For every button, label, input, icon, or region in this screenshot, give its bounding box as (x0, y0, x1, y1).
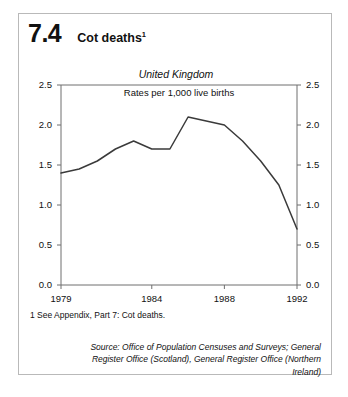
chart-axes (61, 85, 297, 285)
y-axis-label-right-2: 1.0 (306, 200, 330, 210)
x-axis-label-3: 1992 (277, 294, 317, 304)
line-chart (19, 14, 333, 376)
data-series-line-united-kingdom (61, 117, 297, 229)
figure-footnote: 1 See Appendix, Part 7: Cot deaths. (30, 310, 165, 320)
chart-units-annotation: Rates per 1,000 live births (61, 87, 297, 98)
chart-tick-marks (57, 85, 301, 289)
y-axis-label-left-3: 1.5 (28, 160, 52, 170)
figure-panel: 7.4 Cot deaths1 United Kingdom Rates per… (18, 13, 332, 375)
y-axis-label-left-2: 1.0 (28, 200, 52, 210)
y-axis-label-right-3: 1.5 (306, 160, 330, 170)
y-axis-label-left-0: 0.0 (28, 280, 52, 290)
y-axis-label-left-4: 2.0 (28, 120, 52, 130)
x-axis-label-2: 1988 (204, 294, 244, 304)
figure-source-note: Source: Office of Population Censuses an… (69, 341, 321, 378)
y-axis-label-right-1: 0.5 (306, 240, 330, 250)
chart-plot-area: Rates per 1,000 live births 0.00.00.50.5… (19, 14, 333, 376)
x-axis-label-0: 1979 (41, 294, 81, 304)
y-axis-label-right-5: 2.5 (306, 80, 330, 90)
y-axis-label-left-1: 0.5 (28, 240, 52, 250)
y-axis-label-right-4: 2.0 (306, 120, 330, 130)
y-axis-label-right-0: 0.0 (306, 280, 330, 290)
x-axis-label-1: 1984 (132, 294, 172, 304)
y-axis-label-left-5: 2.5 (28, 80, 52, 90)
